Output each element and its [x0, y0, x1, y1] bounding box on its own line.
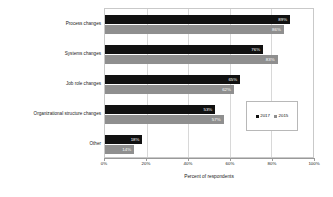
bar-chart: Process changes 89% 86% Systems changes … [0, 0, 333, 197]
bar-value-label: 76% [251, 47, 260, 51]
bar-group: Systems changes 76% 83% [105, 39, 313, 69]
bar-2017[interactable]: 65% [105, 75, 240, 84]
x-axis-tick-label: 100% [308, 162, 319, 166]
category-label: Job role changes [66, 81, 101, 86]
x-axis-tick-label: 20% [142, 162, 151, 166]
x-axis-tick-label: 0% [101, 162, 107, 166]
x-axis-tick-label: 60% [226, 162, 235, 166]
plot-area: Process changes 89% 86% Systems changes … [104, 8, 314, 158]
bar-group: Job role changes 65% 62% [105, 69, 313, 99]
bar-2015[interactable]: 14% [105, 145, 134, 154]
x-axis-line [104, 158, 314, 159]
legend-label: 2017 [260, 114, 270, 118]
bar-value-label: 18% [131, 137, 140, 141]
bar-2017[interactable]: 89% [105, 15, 290, 24]
bar-2017[interactable]: 76% [105, 45, 263, 54]
legend-swatch-icon [274, 115, 277, 118]
bar-2017[interactable]: 53% [105, 105, 215, 114]
bar-value-label: 83% [266, 57, 275, 61]
legend-item-2015[interactable]: 2015 [274, 114, 288, 118]
legend-swatch-icon [256, 115, 259, 118]
x-axis-title: Percent of respondents [104, 175, 314, 180]
bar-value-label: 89% [278, 17, 287, 21]
x-axis-tick-label: 40% [184, 162, 193, 166]
bar-2015[interactable]: 57% [105, 115, 224, 124]
bar-2017[interactable]: 18% [105, 135, 142, 144]
bar-value-label: 86% [272, 27, 281, 31]
category-label: Process changes [66, 21, 101, 26]
bar-2015[interactable]: 86% [105, 25, 284, 34]
category-label: Organizational structure changes [34, 111, 101, 116]
bar-value-label: 57% [212, 117, 221, 121]
x-axis-tick-label: 80% [268, 162, 277, 166]
bar-2015[interactable]: 83% [105, 55, 278, 64]
category-label: Systems changes [65, 51, 101, 56]
bar-value-label: 14% [122, 147, 131, 151]
chart-legend: 2017 2015 [246, 101, 298, 131]
legend-label: 2015 [279, 114, 289, 118]
bar-value-label: 65% [228, 77, 237, 81]
bar-value-label: 62% [222, 87, 231, 91]
bar-group: Other 18% 14% [105, 129, 313, 159]
bar-2015[interactable]: 62% [105, 85, 234, 94]
bar-value-label: 53% [203, 107, 212, 111]
bar-group: Process changes 89% 86% [105, 9, 313, 39]
legend-item-2017[interactable]: 2017 [256, 114, 270, 118]
category-label: Other [90, 141, 102, 146]
